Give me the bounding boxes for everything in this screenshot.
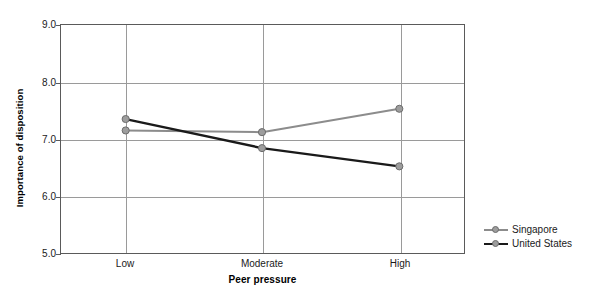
data-point-singapore-moderate bbox=[258, 129, 265, 136]
data-point-singapore-low bbox=[122, 127, 129, 134]
x-tick-label-moderate: Moderate bbox=[241, 258, 283, 269]
legend-item-united-states[interactable]: United States bbox=[484, 237, 588, 250]
y-tick-label-8: 8.0 bbox=[20, 78, 56, 88]
x-axis-title: Peer pressure bbox=[60, 274, 465, 285]
y-tick-label-9: 9.0 bbox=[20, 20, 56, 30]
x-tick-label-low: Low bbox=[116, 258, 134, 269]
y-axis-tick-labels: 9.0 8.0 7.0 6.0 5.0 bbox=[18, 0, 56, 303]
data-point-united-states-high bbox=[396, 163, 403, 170]
x-tick-label-high: High bbox=[390, 258, 411, 269]
legend-marker-united-states-icon bbox=[484, 238, 508, 250]
legend-marker-singapore-icon bbox=[484, 224, 508, 236]
data-point-united-states-moderate bbox=[258, 145, 265, 152]
series-canvas bbox=[61, 25, 464, 253]
data-point-singapore-high bbox=[396, 105, 403, 112]
y-tick-label-6: 6.0 bbox=[20, 192, 56, 202]
tickmark-y-5 bbox=[56, 254, 61, 255]
legend-label-singapore: Singapore bbox=[512, 224, 558, 235]
series-line-united-states bbox=[126, 119, 400, 166]
legend-dot-united-states bbox=[492, 240, 499, 247]
y-tick-label-5: 5.0 bbox=[20, 249, 56, 259]
legend: Singapore United States bbox=[484, 223, 588, 251]
data-point-united-states-low bbox=[122, 115, 129, 122]
y-tick-label-7: 7.0 bbox=[20, 135, 56, 145]
legend-dot-singapore bbox=[492, 226, 499, 233]
legend-item-singapore[interactable]: Singapore bbox=[484, 223, 588, 236]
legend-label-united-states: United States bbox=[512, 238, 572, 249]
line-chart: Importance of disposition 9.0 8.0 7.0 6.… bbox=[0, 0, 590, 303]
plot-area bbox=[60, 24, 465, 254]
